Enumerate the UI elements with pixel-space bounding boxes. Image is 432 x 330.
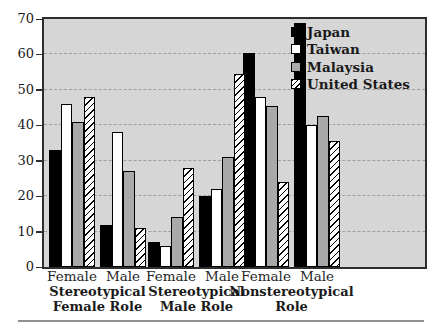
bar-united-states-4 [234, 74, 246, 267]
category-label-1: Female [47, 268, 97, 284]
bar-japan-2 [100, 225, 112, 268]
category-label-6: Male [300, 268, 334, 284]
legend-item-taiwan: Taiwan [291, 41, 410, 59]
bar-malaysia-4 [222, 157, 234, 267]
y-tick-mark-10 [36, 231, 42, 233]
legend-label: Japan [307, 24, 350, 40]
y-tick-mark-60 [36, 54, 42, 56]
y-tick-mark-30 [36, 160, 42, 162]
bar-japan-4 [199, 196, 211, 267]
y-tick-label-20: 20 [0, 188, 34, 204]
plot-area: JapanTaiwanMalaysiaUnited States [42, 17, 427, 269]
bar-taiwan-2 [112, 132, 124, 267]
legend-item-united-states: United States [291, 76, 410, 94]
y-tick-mark-0 [36, 267, 42, 269]
bar-united-states-5 [278, 182, 290, 267]
y-tick-mark-50 [36, 89, 42, 91]
y-tick-label-60: 60 [0, 46, 34, 62]
legend-swatch-malaysia-icon [291, 62, 301, 72]
bar-taiwan-1 [61, 104, 73, 267]
category-label-4: Male [205, 268, 239, 284]
group-label-3: Nonstereotypical Role [226, 285, 358, 314]
category-label-3: Female [146, 268, 196, 284]
y-tick-label-0: 0 [0, 259, 34, 275]
bar-taiwan-6 [306, 125, 318, 267]
bar-malaysia-3 [171, 217, 183, 267]
bar-japan-1 [49, 150, 61, 267]
bar-taiwan-4 [211, 189, 223, 267]
bar-malaysia-2 [123, 171, 135, 267]
bar-taiwan-3 [160, 246, 172, 267]
bar-malaysia-5 [266, 106, 278, 267]
y-tick-label-70: 70 [0, 11, 34, 27]
bottom-rule [18, 320, 424, 322]
legend-swatch-japan-icon [291, 27, 301, 37]
legend-swatch-taiwan-icon [291, 44, 301, 54]
y-tick-mark-70 [36, 19, 42, 21]
bar-united-states-1 [84, 97, 96, 267]
bar-japan-3 [148, 242, 160, 267]
y-tick-label-40: 40 [0, 117, 34, 133]
legend-swatch-us-icon [291, 79, 301, 89]
legend-label: Malaysia [307, 59, 374, 75]
y-tick-mark-20 [36, 196, 42, 198]
category-label-5: Female [241, 268, 291, 284]
legend: JapanTaiwanMalaysiaUnited States [291, 23, 410, 93]
grouped-bar-chart: JapanTaiwanMalaysiaUnited States 0102030… [0, 0, 432, 330]
category-label-2: Male [106, 268, 140, 284]
legend-item-malaysia: Malaysia [291, 58, 410, 76]
y-tick-label-30: 30 [0, 153, 34, 169]
bar-united-states-3 [183, 168, 195, 267]
legend-label: Taiwan [307, 41, 360, 57]
bar-malaysia-6 [317, 116, 329, 267]
legend-label: United States [307, 76, 410, 92]
bar-united-states-2 [135, 228, 147, 267]
legend-item-japan: Japan [291, 23, 410, 41]
y-tick-label-50: 50 [0, 82, 34, 98]
bar-taiwan-5 [255, 97, 267, 267]
y-tick-label-10: 10 [0, 224, 34, 240]
y-tick-mark-40 [36, 125, 42, 127]
bar-malaysia-1 [72, 122, 84, 267]
bar-united-states-6 [329, 141, 341, 267]
